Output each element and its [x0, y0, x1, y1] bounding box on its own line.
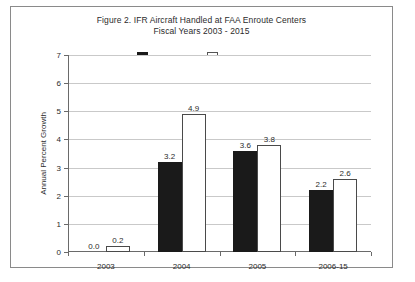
- bar-total[interactable]: 2.2: [309, 190, 333, 252]
- y-axis-tick-label: 5: [57, 107, 61, 116]
- bar-value-label: 0.2: [112, 236, 123, 245]
- y-axis-tick-mark: [64, 55, 68, 56]
- x-axis-category-label: 2004: [173, 262, 191, 271]
- bar-value-label: 3.8: [264, 135, 275, 144]
- y-axis-tick-mark: [64, 168, 68, 169]
- bar-value-label: 0.0: [88, 242, 99, 251]
- x-axis-tick-mark: [295, 252, 296, 256]
- x-axis-tick-mark: [144, 252, 145, 256]
- x-axis-tick-mark: [371, 252, 372, 256]
- plot-area: 01234567 0.00.220033.24.920043.63.820052…: [68, 55, 371, 252]
- bar-value-label: 2.6: [340, 169, 351, 178]
- y-axis-tick-mark: [64, 111, 68, 112]
- y-axis-tick-mark: [64, 224, 68, 225]
- y-axis-tick-label: 6: [57, 79, 61, 88]
- figure-frame: Figure 2. IFR Aircraft Handled at FAA En…: [10, 6, 393, 268]
- bar-total[interactable]: 3.2: [158, 162, 182, 252]
- y-axis-tick-label: 0: [57, 248, 61, 257]
- y-axis-tick-label: 3: [57, 163, 61, 172]
- y-axis-tick-label: 7: [57, 51, 61, 60]
- x-axis-category-label: 2003: [97, 262, 115, 271]
- y-axis-line: [68, 55, 69, 252]
- y-axis-tick-mark: [64, 139, 68, 140]
- y-axis-title: Annual Percent Growth: [37, 55, 49, 252]
- bar-total[interactable]: 3.6: [233, 151, 257, 252]
- y-axis-tick-mark: [64, 196, 68, 197]
- bar-commercial[interactable]: 0.2: [106, 246, 130, 252]
- y-axis-tick-mark: [64, 83, 68, 84]
- y-axis-tick-label: 2: [57, 191, 61, 200]
- bar-group: 0.00.22003: [82, 55, 130, 252]
- y-axis-title-text: Annual Percent Growth: [39, 112, 48, 195]
- chart-title: Figure 2. IFR Aircraft Handled at FAA En…: [11, 15, 392, 37]
- bar-group: 3.24.92004: [158, 55, 206, 252]
- x-axis-tick-mark: [220, 252, 221, 256]
- y-axis-tick-label: 4: [57, 135, 61, 144]
- bar-commercial[interactable]: 2.6: [333, 179, 357, 252]
- y-axis-tick-label: 1: [57, 219, 61, 228]
- bar-commercial[interactable]: 3.8: [257, 145, 281, 252]
- bar-group: 3.63.82005: [233, 55, 281, 252]
- chart-title-line-1: Figure 2. IFR Aircraft Handled at FAA En…: [97, 15, 306, 25]
- bar-value-label: 4.9: [188, 104, 199, 113]
- x-axis-category-label: 2006-15: [318, 262, 347, 271]
- bar-value-label: 2.2: [316, 180, 327, 189]
- bar-commercial[interactable]: 4.9: [182, 114, 206, 252]
- bar-value-label: 3.2: [164, 152, 175, 161]
- bar-group: 2.22.62006-15: [309, 55, 357, 252]
- x-axis-tick-mark: [68, 252, 69, 256]
- bar-value-label: 3.6: [240, 141, 251, 150]
- x-axis-category-label: 2005: [248, 262, 266, 271]
- chart-title-line-2: Fiscal Years 2003 - 2015: [11, 26, 392, 37]
